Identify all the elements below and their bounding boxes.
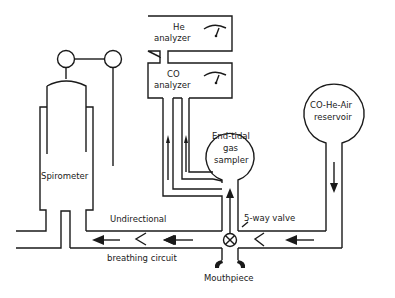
diagram-canvas: Spirometer Undirectional breathing circu… — [0, 0, 395, 298]
co-gauge-icon — [204, 72, 226, 84]
five-way-valve: 5-way valve — [224, 188, 296, 247]
breathing-circuit: Undirectional breathing circuit — [70, 214, 342, 263]
co-analyzer-label-1: CO — [167, 69, 180, 79]
co-he-air-reservoir: CO-He-Air reservoir — [304, 84, 364, 248]
mouthpiece: Mouthpiece — [204, 248, 254, 283]
valve-label: 5-way valve — [244, 213, 295, 223]
co-analyzer: CO analyzer — [148, 57, 232, 98]
circuit-label-line2: breathing circuit — [107, 253, 177, 263]
he-analyzer-label-2: analyzer — [154, 33, 191, 43]
sampler-label-1: End-tidal — [212, 131, 250, 141]
flow-arrows — [92, 233, 314, 246]
sampler-label-2: gas — [223, 143, 239, 153]
reservoir-label-1: CO-He-Air — [310, 100, 353, 110]
he-gauge-icon — [204, 25, 226, 37]
spirometer-label: Spirometer — [41, 171, 89, 181]
co-analyzer-label-2: analyzer — [154, 80, 191, 90]
mouthpiece-label: Mouthpiece — [204, 273, 254, 283]
he-analyzer: He analyzer — [148, 16, 232, 57]
spirometer: Spirometer — [16, 81, 93, 248]
he-analyzer-label-1: He — [173, 22, 185, 32]
reservoir-label-2: reservoir — [314, 112, 352, 122]
spirometer-pulley-system — [58, 51, 122, 167]
sampler-label-3: sampler — [214, 155, 249, 165]
circuit-label-line1: Undirectional — [110, 214, 166, 224]
